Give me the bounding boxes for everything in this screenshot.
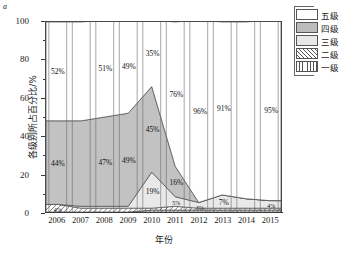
y-axis-tick-label: 0 [25, 208, 30, 218]
value-label: 51% [98, 65, 112, 73]
y-axis-tick-label: 80 [20, 54, 29, 64]
y-axis-tick-label: 40 [20, 131, 29, 141]
y-axis-tick [41, 213, 45, 214]
legend-swatch-vertical [296, 61, 318, 72]
value-label: 49% [122, 157, 136, 165]
x-axis-tick-label: 2009 [119, 215, 136, 225]
legend-swatch-solid-gray [296, 22, 318, 33]
legend-swatch-solid-light [296, 35, 318, 46]
legend-item[interactable]: 四级 [296, 21, 340, 34]
value-label: 35% [146, 50, 160, 58]
value-label: 96% [193, 108, 207, 116]
plot-area: 52%44%4%51%47%49%49%35%45%19%76%16%5%96%… [45, 21, 282, 213]
value-label: 45% [146, 127, 160, 135]
value-label: 76% [169, 91, 183, 99]
x-axis-title: 年份 [45, 233, 282, 246]
legend-label: 四级 [321, 22, 339, 34]
y-axis-tick-label: 100 [16, 16, 30, 26]
legend-item[interactable]: 二级 [296, 47, 340, 60]
legend-item[interactable]: 五级 [296, 8, 340, 21]
legend: 五级四级三级二级一级 [296, 8, 340, 73]
value-label: 16% [169, 180, 183, 188]
x-axis-tick-label: 2006 [48, 215, 65, 225]
value-label: 19% [146, 188, 160, 196]
y-axis-tick-label: 60 [20, 93, 29, 103]
legend-label: 一级 [321, 61, 339, 73]
legend-swatch-solid-white [296, 9, 318, 20]
value-label: 5% [172, 200, 180, 206]
value-label: 3% [196, 205, 204, 211]
value-label: 4% [267, 203, 275, 209]
x-axis-tick-label: 2010 [143, 215, 160, 225]
stacked-area-svg [46, 22, 281, 212]
x-axis-tick-label: 2008 [96, 215, 113, 225]
value-label: 52% [51, 68, 65, 76]
chart-root: a 各级别所占百分比/% 020406080100 52%44%4%51%47%… [0, 0, 344, 257]
y-axis-labels: 020406080100 [0, 21, 38, 213]
panel-letter: a [3, 2, 7, 11]
value-label: 91% [217, 106, 231, 114]
x-axis-labels: 2006200720082009201020112012201320142015 [45, 215, 282, 229]
value-label: 44% [51, 160, 65, 168]
value-label: 49% [122, 63, 136, 71]
legend-item[interactable]: 三级 [296, 34, 340, 47]
y-axis-tick-label: 20 [20, 170, 29, 180]
y-axis-ticks [38, 21, 45, 213]
legend-label: 五级 [321, 9, 339, 21]
x-axis-line [45, 212, 283, 213]
x-axis-tick-label: 2012 [191, 215, 208, 225]
legend-label: 三级 [321, 35, 339, 47]
x-axis-tick-label: 2013 [214, 215, 231, 225]
legend-label: 二级 [321, 48, 339, 60]
legend-item[interactable]: 一级 [296, 60, 340, 73]
value-label: 7% [219, 200, 229, 208]
value-label: 47% [98, 159, 112, 167]
value-label: 95% [264, 108, 278, 116]
x-axis-tick-label: 2015 [262, 215, 279, 225]
legend-swatch-diagonal [296, 48, 318, 59]
x-axis-tick-label: 2014 [238, 215, 255, 225]
x-axis-tick-label: 2011 [167, 215, 184, 225]
x-axis-tick-label: 2007 [72, 215, 89, 225]
